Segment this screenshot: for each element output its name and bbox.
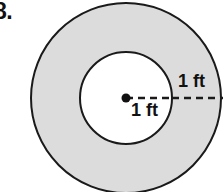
ring-width-label: 1 ft — [178, 71, 205, 91]
annulus-diagram — [0, 0, 223, 192]
figure-container: 8. 1 ft 1 ft — [0, 0, 223, 192]
center-point-dot — [122, 94, 131, 103]
inner-radius-label: 1 ft — [131, 100, 158, 120]
